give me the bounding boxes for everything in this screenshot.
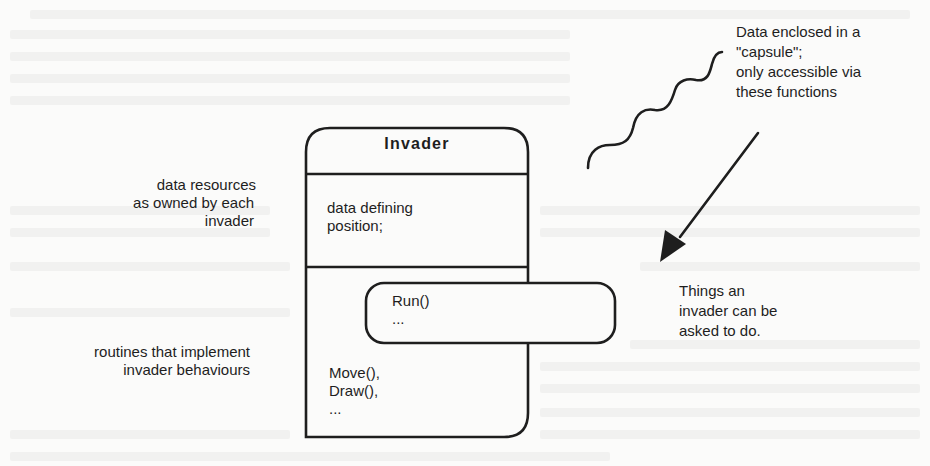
class-title: Invader (306, 135, 528, 153)
data-section-line: position; (327, 217, 413, 235)
capsule-text: Run() ... (392, 292, 430, 328)
routine-draw: Draw(), (329, 382, 380, 400)
data-section-line: data defining (327, 199, 413, 217)
label-line: routines that implement (30, 343, 250, 361)
label-line: only accessible via (736, 62, 861, 82)
label-line: "capsule"; (736, 42, 861, 62)
routine-move: Move(), (329, 364, 380, 382)
arrow-icon (660, 133, 758, 262)
label-line: invader behaviours (30, 361, 250, 379)
routine-ellipsis: ... (329, 400, 380, 418)
label-line: asked to do. (679, 321, 777, 341)
label-routines: routines that implement invader behaviou… (30, 343, 250, 379)
capsule-ellipsis: ... (392, 310, 430, 328)
label-line: Data enclosed in a (736, 22, 861, 42)
capsule-run: Run() (392, 292, 430, 310)
data-section-text: data defining position; (327, 199, 413, 235)
wavy-connector-line (588, 52, 722, 168)
label-data-resources: data resources as owned by each invader (60, 176, 256, 230)
label-line: as owned by each (60, 194, 254, 212)
label-line: Things an (679, 281, 777, 301)
label-line: invader (60, 212, 254, 230)
label-things: Things an invader can be asked to do. (679, 281, 777, 341)
label-capsule-note: Data enclosed in a "capsule"; only acces… (736, 22, 861, 102)
label-line: these functions (736, 82, 861, 102)
label-line: data resources (60, 176, 256, 194)
label-line: invader can be (679, 301, 777, 321)
routines-section-text: Move(), Draw(), ... (329, 364, 380, 418)
